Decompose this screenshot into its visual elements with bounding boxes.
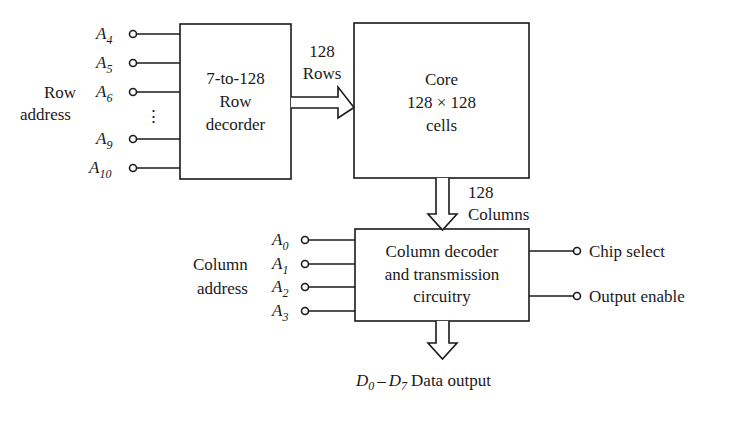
column-decoder-line2: and transmission [385, 265, 500, 284]
input-label-a5: A5 [95, 53, 112, 76]
row-address-label-line2: address [20, 105, 71, 124]
row-address-label-line1: Row [44, 83, 77, 102]
column-address-label-line2: address [197, 279, 248, 298]
input-label-a3: A3 [271, 301, 288, 324]
input-label-a2: A2 [271, 277, 288, 300]
column-bus-label: Columns [468, 205, 529, 224]
row-decoder-line3: decorder [206, 115, 266, 134]
terminal-chip-select-icon [574, 248, 581, 255]
input-label-a10: A10 [88, 158, 111, 181]
terminal-a0-icon [302, 237, 309, 244]
output-enable-label: Output enable [589, 287, 685, 306]
terminal-a2-icon [302, 284, 309, 291]
memory-block-diagram: Row address A4 A5 A6 A9 A10 ⋮ 7-to-128 R… [0, 0, 733, 422]
row-bus-count: 128 [309, 42, 335, 61]
column-bus-arrow-icon [428, 178, 457, 230]
terminal-a3-icon [302, 308, 309, 315]
column-decoder-line1: Column decoder [386, 242, 499, 261]
terminal-a10-icon [130, 165, 137, 172]
data-output-label: D0–D7Data output [355, 371, 491, 393]
input-label-a9: A9 [95, 129, 112, 152]
input-label-a4: A4 [95, 24, 112, 47]
core-line2: 128 × 128 [407, 93, 476, 112]
column-address-label-line1: Column [193, 255, 248, 274]
row-decoder-line1: 7-to-128 [206, 69, 265, 88]
row-address-lines [130, 31, 181, 172]
vertical-ellipsis-icon: ⋮ [145, 107, 162, 126]
control-output-lines [529, 248, 581, 300]
column-bus-count: 128 [468, 183, 494, 202]
terminal-a1-icon [302, 261, 309, 268]
row-decoder-line2: Row [219, 92, 252, 111]
core-line1: Core [425, 70, 458, 89]
row-bus-arrow-icon [291, 87, 354, 118]
core-line3: cells [426, 116, 457, 135]
terminal-a6-icon [130, 89, 137, 96]
terminal-a5-icon [130, 60, 137, 67]
input-label-a0: A0 [271, 230, 288, 253]
column-decoder-line3: circuitry [413, 287, 471, 306]
data-output-arrow-icon [428, 321, 457, 359]
terminal-output-enable-icon [574, 293, 581, 300]
input-label-a6: A6 [95, 82, 112, 105]
terminal-a4-icon [130, 31, 137, 38]
input-label-a1: A1 [271, 254, 288, 277]
column-address-lines [302, 237, 356, 315]
chip-select-label: Chip select [589, 242, 665, 261]
terminal-a9-icon [130, 136, 137, 143]
row-bus-label: Rows [303, 64, 342, 83]
